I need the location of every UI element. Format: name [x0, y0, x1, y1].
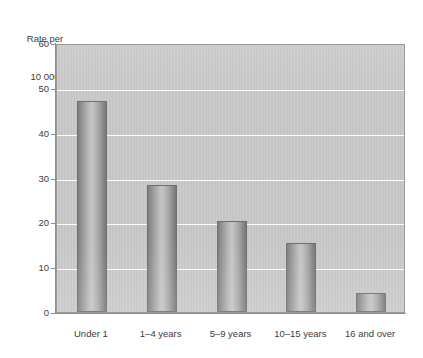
- y-axis-tick-label: 40: [5, 129, 49, 139]
- gridline: [57, 90, 404, 91]
- y-axis-tick-mark: [51, 89, 56, 90]
- plot-area: [56, 44, 405, 313]
- y-axis-tick-label: 0: [5, 308, 49, 318]
- bar-chart-figure: Rate per 10 000 0102030405060 Under 11–4…: [0, 0, 423, 358]
- y-axis-tick-labels: 0102030405060: [0, 0, 49, 358]
- y-axis-tick-mark: [51, 44, 56, 45]
- y-axis-tick-mark: [51, 313, 56, 314]
- bar: [356, 293, 386, 312]
- y-axis-tick-mark: [51, 134, 56, 135]
- gridline: [57, 180, 404, 181]
- x-axis-tick-label: 16 and over: [320, 328, 420, 339]
- y-axis-tick-label: 20: [5, 218, 49, 228]
- x-axis-line: [55, 313, 406, 314]
- y-axis-tick-label: 30: [5, 174, 49, 184]
- y-axis-tick-label: 60: [5, 39, 49, 49]
- y-axis-tick-mark: [51, 179, 56, 180]
- bar: [217, 221, 247, 312]
- y-axis-tick-label: 50: [5, 84, 49, 94]
- bar: [77, 101, 107, 312]
- bar: [147, 185, 177, 312]
- y-axis-tick-mark: [51, 223, 56, 224]
- y-axis-tick-mark: [51, 268, 56, 269]
- bar: [286, 243, 316, 312]
- gridline: [57, 135, 404, 136]
- y-axis-tick-label: 10: [5, 263, 49, 273]
